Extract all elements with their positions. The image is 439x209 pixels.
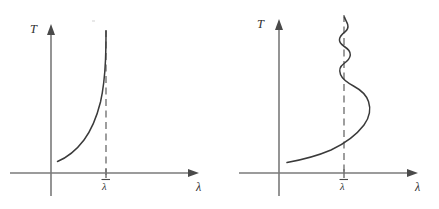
right-panel: T λ λ — [219, 0, 439, 209]
y-axis-left — [47, 24, 55, 196]
curve-diverging — [58, 31, 107, 162]
x-axis-arrowhead — [188, 169, 199, 177]
y-axis-arrowhead — [47, 24, 55, 35]
left-panel: T λ λ — [0, 0, 220, 209]
paper-speck — [92, 20, 95, 22]
x-axis-label-right: λ — [414, 180, 420, 194]
y-axis-label-left: T — [30, 22, 38, 36]
curve-s-shaped-oscillating — [287, 17, 370, 163]
y-axis-arrowhead — [275, 19, 283, 30]
y-axis-right — [275, 19, 283, 196]
x-axis-left — [10, 169, 199, 177]
figure-root: T λ λ T λ λ — [0, 0, 439, 209]
x-tick-label-lambda-bar-right: λ — [339, 180, 348, 193]
x-axis-right — [239, 169, 418, 177]
x-axis-arrowhead — [407, 169, 418, 177]
y-axis-label-right: T — [257, 17, 265, 31]
x-tick-label-lambda-bar-left: λ — [101, 180, 110, 193]
lambda-bar-glyph-left: λ — [101, 181, 107, 192]
lambda-bar-glyph-right: λ — [339, 181, 345, 192]
x-axis-label-left: λ — [195, 180, 201, 194]
